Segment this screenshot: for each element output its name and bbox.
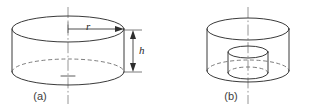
radius-label: r	[86, 21, 90, 32]
height-label: h	[139, 45, 145, 56]
panel-a-height-upper-arrowhead	[130, 30, 136, 39]
panel-a-radius-arrowhead	[115, 26, 124, 32]
panel-a-caption: (a)	[22, 91, 58, 102]
panel-a-height-lower-arrowhead	[130, 63, 136, 72]
panel-b-caption: (b)	[213, 91, 249, 102]
panel-b-cylinder	[207, 7, 289, 104]
figure-container: r h (a) (b)	[0, 0, 329, 111]
panel-a-cylinder	[12, 7, 142, 104]
